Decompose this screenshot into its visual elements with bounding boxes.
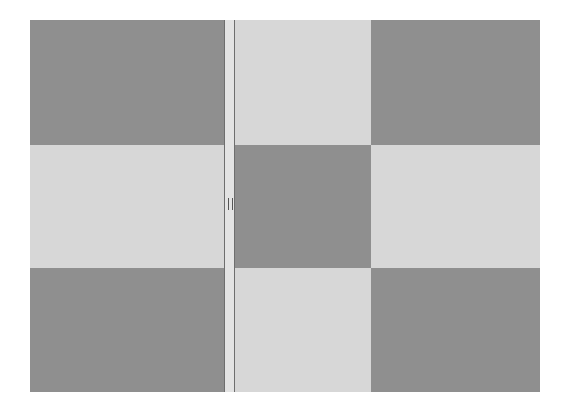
- vertical-splitter[interactable]: [224, 20, 235, 392]
- cell-bottom-left: [30, 268, 224, 392]
- cell-top-left: [30, 20, 224, 145]
- cell-middle-center: [235, 145, 371, 268]
- cell-bottom-right: [371, 268, 540, 392]
- checkerboard-grid: [30, 20, 540, 392]
- cell-middle-left: [30, 145, 224, 268]
- cell-top-right: [371, 20, 540, 145]
- grip-handle-icon[interactable]: [228, 198, 233, 210]
- cell-bottom-center: [235, 268, 371, 392]
- cell-top-center: [235, 20, 371, 145]
- cell-middle-right: [371, 145, 540, 268]
